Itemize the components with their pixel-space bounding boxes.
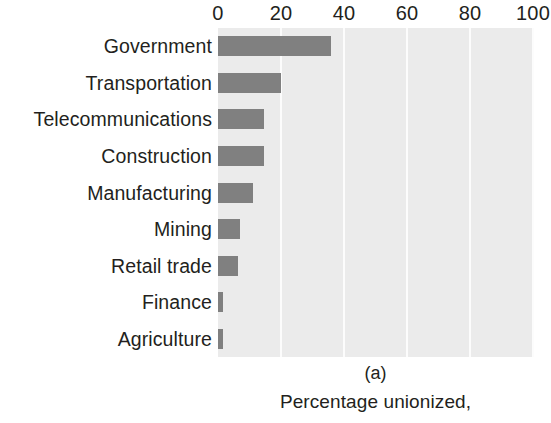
bar <box>218 219 240 239</box>
y-tick-label: Government <box>104 34 212 58</box>
x-tick-label: 100 <box>516 2 550 24</box>
y-tick-label: Finance <box>142 290 212 314</box>
bar <box>218 183 253 203</box>
y-axis-category-labels: GovernmentTransportationTelecommunicatio… <box>0 28 212 357</box>
x-tick-label: 20 <box>270 2 293 24</box>
bar <box>218 109 264 129</box>
x-tick-label: 80 <box>459 2 482 24</box>
bar <box>218 36 331 56</box>
y-tick-label: Telecommunications <box>34 107 212 131</box>
y-tick-label: Construction <box>101 144 212 168</box>
figure-caption: Percentage unionized, <box>218 391 533 413</box>
x-tick-label: 40 <box>333 2 356 24</box>
bar <box>218 329 223 349</box>
y-tick-label: Retail trade <box>111 254 212 278</box>
x-tick-label: 0 <box>212 2 223 24</box>
bar <box>218 146 264 166</box>
y-tick-label: Manufacturing <box>87 181 212 205</box>
y-tick-label: Transportation <box>86 71 212 95</box>
x-tick-label: 60 <box>396 2 419 24</box>
y-tick-label: Agriculture <box>118 327 212 351</box>
bar <box>218 292 223 312</box>
y-tick-label: Mining <box>154 217 212 241</box>
panel-label: (a) <box>218 363 533 383</box>
bar <box>218 73 281 93</box>
bar-chart-figure: 020406080100 GovernmentTransportationTel… <box>0 0 551 423</box>
bar <box>218 256 238 276</box>
bar-series <box>218 28 533 357</box>
plot-area <box>218 28 533 357</box>
